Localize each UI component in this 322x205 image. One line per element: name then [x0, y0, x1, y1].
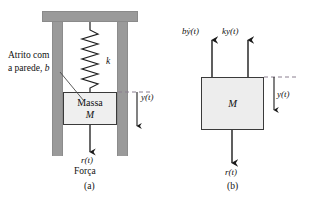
mass-label-line1: Massa [77, 97, 103, 108]
friction-symbol-b: b [45, 63, 50, 73]
mass-label-line2: M [86, 109, 94, 120]
wall-right [117, 22, 128, 156]
friction-annotation: Atrito com a parede, b [8, 49, 49, 74]
friction-line2-prefix: a parede, [8, 63, 45, 73]
physics-figure: Massa M Atrito com a parede, b k y(t) r(… [0, 0, 322, 205]
damping-force-label: bẏ(t) [182, 26, 199, 36]
spring-coil [82, 22, 98, 92]
mass-block-a: Massa M [63, 92, 117, 125]
displacement-label-a: y(t) [141, 92, 154, 102]
mass-block-b: M [201, 77, 264, 130]
panel-caption-b: (b) [227, 181, 238, 191]
displacement-label-b: y(t) [277, 89, 290, 99]
vector-overlay [0, 0, 322, 205]
ceiling-support [42, 11, 138, 22]
applied-force-label-b: r(t) [225, 167, 237, 177]
mass-label-b: M [228, 98, 237, 109]
friction-line1: Atrito com [8, 50, 49, 60]
force-label-a: r(t) [81, 155, 93, 165]
spring-force-label: ky(t) [222, 26, 238, 36]
spring-constant-label: k [106, 56, 110, 66]
force-caption-a: Força [74, 166, 96, 176]
wall-left [52, 22, 63, 156]
panel-caption-a: (a) [84, 181, 95, 191]
